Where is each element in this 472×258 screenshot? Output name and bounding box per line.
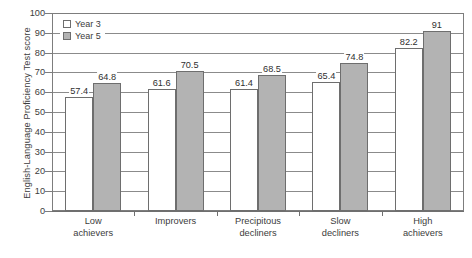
category-label-line: achievers xyxy=(403,228,443,240)
y-axis-tick-mark xyxy=(45,211,52,212)
category-label-line: Improvers xyxy=(155,216,196,228)
x-axis-tick-mark xyxy=(134,211,135,216)
y-axis-tick-mark xyxy=(45,53,52,54)
bar-value-label: 82.2 xyxy=(399,37,419,47)
y-axis-tick-label: 60 xyxy=(19,87,45,97)
y-axis-tick-mark xyxy=(45,33,52,34)
category-label-line: decliners xyxy=(322,228,359,240)
y-axis-tick-mark xyxy=(45,171,52,172)
bar-year-3 xyxy=(65,97,93,211)
bar-value-label: 64.8 xyxy=(97,72,117,82)
bar-year-5 xyxy=(258,75,286,211)
y-axis-tick-labels: 1009080706050403020100 xyxy=(14,0,45,258)
category-label-line: Precipitous xyxy=(235,216,281,228)
category-label-line: achievers xyxy=(73,228,113,240)
bar-value-label: 68.5 xyxy=(262,64,282,74)
x-axis-tick-mark xyxy=(217,211,218,216)
bar-value-label: 70.5 xyxy=(180,60,200,70)
category-label-line: decliners xyxy=(235,228,281,240)
x-axis-category-label: Highachievers xyxy=(403,216,443,239)
legend-item-year-3: Year 3 xyxy=(63,18,101,29)
bar-value-label: 65.4 xyxy=(316,71,336,81)
bar-year-5 xyxy=(423,31,451,211)
bar-year-3 xyxy=(395,48,423,211)
chart-legend: Year 3 Year 5 xyxy=(60,16,105,44)
bar-year-5 xyxy=(176,71,204,211)
y-axis-tick-label: 10 xyxy=(19,186,45,196)
y-axis-tick-label: 40 xyxy=(19,127,45,137)
x-axis-category-label: Lowachievers xyxy=(73,216,113,239)
y-axis-tick-mark xyxy=(45,72,52,73)
y-axis-tick-mark xyxy=(45,92,52,93)
y-axis-tick-label: 100 xyxy=(19,8,45,18)
x-axis-tick-mark xyxy=(382,211,383,216)
y-axis-tick-mark xyxy=(45,112,52,113)
year-5-swatch-icon xyxy=(63,32,71,40)
category-label-line: Slow xyxy=(322,216,359,228)
y-axis-tick-mark xyxy=(45,152,52,153)
bar-year-5 xyxy=(93,83,121,211)
x-axis-category-label: Slowdecliners xyxy=(322,216,359,239)
y-axis-tick-label: 80 xyxy=(19,48,45,58)
legend-item-year-5: Year 5 xyxy=(63,30,101,41)
bar-value-label: 91 xyxy=(431,20,443,30)
bar-year-3 xyxy=(230,89,258,211)
bar-value-label: 74.8 xyxy=(344,52,364,62)
y-axis-tick-label: 20 xyxy=(19,166,45,176)
bar-value-label: 61.4 xyxy=(234,78,254,88)
bar-year-5 xyxy=(340,63,368,211)
y-axis-tick-label: 0 xyxy=(19,206,45,216)
chart-figure: English-Language Proficiency Test score … xyxy=(0,0,472,258)
x-axis-category-label: Improvers xyxy=(155,216,196,228)
bar-value-label: 57.4 xyxy=(69,86,89,96)
y-axis-tick-label: 90 xyxy=(19,28,45,38)
x-axis-tick-mark xyxy=(299,211,300,216)
y-axis-tick-mark xyxy=(45,13,52,14)
legend-label-year-3: Year 3 xyxy=(75,19,101,29)
x-axis-line xyxy=(52,211,464,212)
legend-label-year-5: Year 5 xyxy=(75,31,101,41)
category-label-line: High xyxy=(403,216,443,228)
y-axis-tick-label: 70 xyxy=(19,67,45,77)
bar-value-label: 61.6 xyxy=(152,78,172,88)
y-axis-tick-label: 50 xyxy=(19,107,45,117)
y-axis-tick-label: 30 xyxy=(19,147,45,157)
y-axis-tick-mark xyxy=(45,132,52,133)
year-3-swatch-icon xyxy=(63,20,71,28)
bar-year-3 xyxy=(312,82,340,211)
category-label-line: Low xyxy=(73,216,113,228)
figure-caption xyxy=(0,250,472,258)
bars-layer: 57.464.861.670.561.468.565.474.882.291 xyxy=(52,13,464,211)
x-axis-category-label: Precipitousdecliners xyxy=(235,216,281,239)
bar-year-3 xyxy=(148,89,176,211)
y-axis-tick-mark xyxy=(45,191,52,192)
